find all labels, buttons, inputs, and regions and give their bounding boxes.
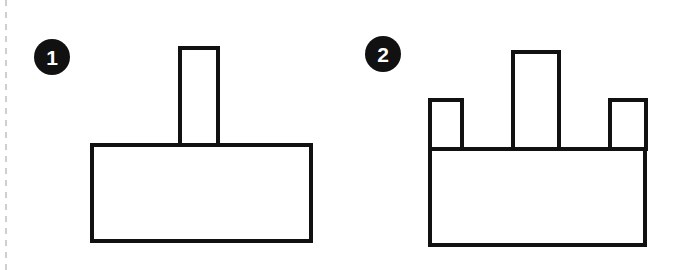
step-badge-2-label: 2: [377, 43, 389, 64]
figure-2-base-block: [430, 149, 645, 245]
step-badge-1-label: 1: [46, 46, 58, 67]
step-badge-2: 2: [365, 36, 401, 72]
figure-1-center-tab: [180, 48, 218, 145]
figure-2-left-tab: [430, 100, 462, 149]
figure-2-center-tab: [513, 52, 559, 149]
figure-1-group: [92, 48, 311, 241]
figure-2-group: [428, 52, 647, 245]
illustration-canvas: 1 2: [0, 0, 674, 270]
line-drawing-svg: [0, 0, 674, 270]
figure-1-base-block: [92, 145, 311, 241]
step-badge-1: 1: [34, 39, 70, 75]
figure-2-right-tab: [610, 100, 646, 149]
